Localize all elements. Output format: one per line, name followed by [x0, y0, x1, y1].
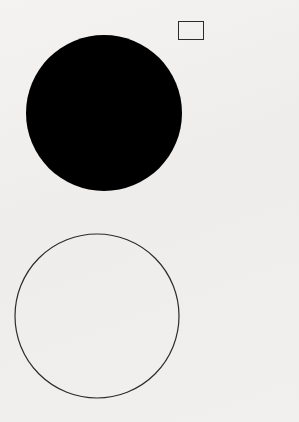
top-pie-chart-block [0, 0, 299, 211]
bottom-pie-chart-block [0, 211, 299, 422]
top-pie-legend [178, 19, 294, 40]
top-pie-wedge-other[interactable] [26, 35, 182, 191]
bottom-pie-outline [15, 234, 179, 398]
legend-item-voters-support[interactable] [178, 19, 294, 40]
bottom-pie-chart [0, 211, 299, 422]
legend-swatch-voters-support [178, 21, 204, 40]
page-root [0, 0, 299, 422]
